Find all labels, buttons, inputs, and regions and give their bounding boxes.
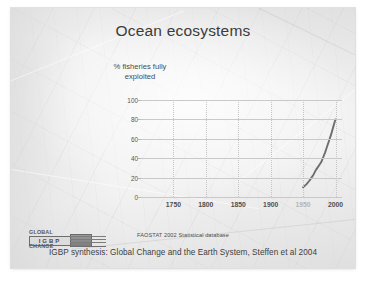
logo-rule-3	[70, 242, 106, 243]
gridline-vertical	[173, 100, 174, 197]
x-tick-label: 1950	[296, 201, 311, 208]
y-axis-caption: % fisheries fully exploited	[85, 62, 195, 81]
y-axis-caption-line1: % fisheries fully	[114, 62, 167, 71]
x-tick-label: 1900	[263, 201, 278, 208]
gridline-horizontal	[141, 178, 342, 179]
slide-title: Ocean ecosystems	[11, 22, 355, 40]
gridline-horizontal	[141, 158, 342, 159]
gridline-horizontal	[141, 197, 342, 198]
y-tick-mark	[138, 158, 141, 159]
y-tick-mark	[138, 178, 141, 179]
x-tick-label: 1850	[231, 201, 246, 208]
fisheries-curve	[141, 100, 342, 197]
y-tick-label: 60	[131, 135, 138, 142]
chart-plot-area: 020406080100175018001850190019502000	[141, 100, 342, 197]
gridline-horizontal	[141, 119, 342, 120]
y-tick-mark	[138, 197, 141, 198]
gridline-vertical	[206, 100, 207, 197]
gridline-vertical	[271, 100, 272, 197]
y-tick-mark	[138, 139, 141, 140]
x-tick-label: 1750	[166, 201, 181, 208]
gridline-horizontal	[141, 100, 342, 101]
y-tick-label: 100	[127, 97, 138, 104]
gridline-horizontal	[141, 139, 342, 140]
y-tick-label: 80	[131, 116, 138, 123]
presentation-slide: Ocean ecosystems % fisheries fully explo…	[11, 8, 355, 268]
gridline-vertical	[238, 100, 239, 197]
y-tick-label: 40	[131, 155, 138, 162]
logo-word-global: GLOBAL	[29, 229, 69, 235]
logo-rule-2	[70, 239, 106, 240]
fisheries-line-chart: 020406080100175018001850190019502000	[130, 100, 346, 218]
logo-underline	[70, 246, 106, 248]
y-tick-mark	[138, 100, 141, 101]
x-tick-label: 1800	[198, 201, 213, 208]
gridline-vertical	[303, 100, 304, 197]
x-tick-label: 2000	[328, 201, 343, 208]
logo-rule-1	[70, 236, 106, 237]
logo-word-change: CHANGE	[29, 243, 69, 249]
y-tick-mark	[138, 119, 141, 120]
y-tick-label: 20	[131, 174, 138, 181]
y-axis-caption-line2: exploited	[85, 72, 195, 82]
gridline-vertical	[336, 100, 337, 197]
igbp-global-change-logo: GLOBAL IGBP CHANGE	[29, 229, 107, 253]
y-tick-label: 0	[134, 194, 138, 201]
